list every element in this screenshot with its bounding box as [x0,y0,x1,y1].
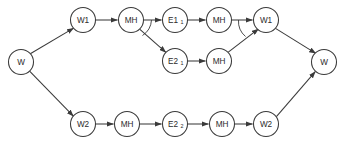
node-e1-1-subscript: 1 [181,19,184,25]
node-w2-right[interactable]: W2 [254,112,279,137]
node-mh-top-1[interactable]: MH [119,8,144,33]
node-w1-top-label: W1 [77,16,90,25]
node-w2-left[interactable]: W2 [71,112,96,137]
node-w1-right[interactable]: W1 [254,8,279,33]
edge-mh-to-w1-right-join [228,29,258,52]
node-mh-middle[interactable]: MH [207,49,232,74]
edge-w1-right-to-w-end [276,28,316,53]
node-e2-1-subscript: 1 [181,60,184,66]
join-arc-icon [238,20,245,37]
node-e2-2[interactable]: E2 2 [163,112,188,137]
node-mh-top-2[interactable]: MH [207,8,232,33]
edge-w-to-w2-left [30,71,74,116]
node-w1-right-label: W1 [260,16,273,25]
node-w2-left-label: W2 [77,120,90,129]
node-mh-bottom-2[interactable]: MH [210,112,235,137]
node-w-end[interactable]: W [312,50,337,75]
edge-w-to-w1-top [30,28,73,54]
node-mh-middle-label: MH [213,57,226,66]
nodes-layer: W W1 MH E1 1 MH W1 [9,8,337,137]
graph-canvas: W W1 MH E1 1 MH W1 [0,0,346,145]
node-mh-top-1-label: MH [125,16,138,25]
edge-mh-to-e2-1 [140,29,166,52]
process-flow-diagram: W W1 MH E1 1 MH W1 [0,0,346,145]
node-e1-1-label: E1 [168,16,178,25]
node-w-start-label: W [17,58,25,67]
node-e1-1[interactable]: E1 1 [163,8,188,33]
node-e2-2-label: E2 [168,120,178,129]
node-e2-1-label: E2 [168,57,178,66]
node-w1-top[interactable]: W1 [71,8,96,33]
node-w-start[interactable]: W [9,50,34,75]
edge-w2-right-to-w-end [276,72,315,117]
node-e2-1[interactable]: E2 1 [163,49,188,74]
node-mh-bottom-1-label: MH [121,120,134,129]
node-mh-top-2-label: MH [213,16,226,25]
node-mh-bottom-2-label: MH [216,120,229,129]
node-w-end-label: W [320,58,328,67]
node-mh-bottom-1[interactable]: MH [115,112,140,137]
node-e2-2-subscript: 2 [181,123,184,129]
node-w2-right-label: W2 [260,120,273,129]
